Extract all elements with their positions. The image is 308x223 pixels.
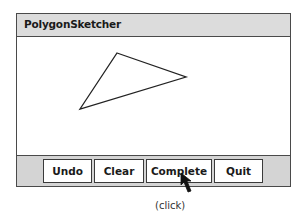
undo-button[interactable]: Undo: [43, 159, 92, 183]
click-annotation: (click): [155, 200, 185, 211]
clear-button[interactable]: Clear: [94, 159, 144, 183]
title-bar: PolygonSketcher: [17, 14, 290, 37]
polygon-sketcher-window: PolygonSketcher Undo Clear Complete Quit: [16, 13, 291, 187]
drawing-canvas[interactable]: [17, 37, 290, 157]
window-title: PolygonSketcher: [24, 18, 121, 30]
arrow-pointer-icon: [178, 170, 194, 196]
quit-button[interactable]: Quit: [214, 159, 263, 183]
button-bar: Undo Clear Complete Quit: [17, 155, 290, 186]
polygon-triangle: [17, 37, 291, 157]
